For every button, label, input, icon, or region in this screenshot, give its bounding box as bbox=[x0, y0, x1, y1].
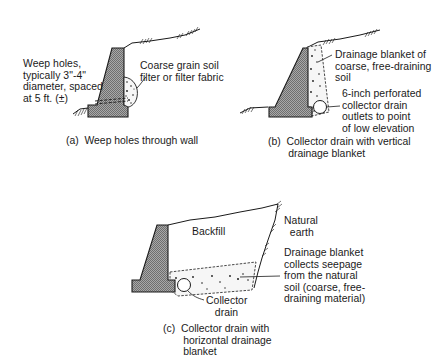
collector-drain-label-c: Collector drain bbox=[206, 295, 247, 318]
natural-earth-line bbox=[254, 204, 278, 288]
backfill-surface-c bbox=[168, 204, 278, 225]
drainage-blanket-label-b: Drainage blanket of coarse, free-drainin… bbox=[335, 49, 431, 84]
collector-leader-line bbox=[327, 106, 340, 107]
natural-earth-label: Natural earth bbox=[284, 215, 318, 238]
collector-pipe-b bbox=[314, 101, 327, 114]
caption-b: (b) Collector drain with vertical draina… bbox=[268, 136, 411, 159]
collector-drain-label-b: 6-inch perforated collector drain outlet… bbox=[342, 88, 421, 134]
backfill-surface-b bbox=[308, 30, 380, 47]
filter-label: Coarse grain soil filter or filter fabri… bbox=[140, 60, 224, 83]
retaining-wall-b bbox=[269, 48, 312, 117]
backfill-label: Backfill bbox=[192, 226, 225, 238]
panel-c-drawing bbox=[132, 201, 282, 300]
drainage-blanket-label-c: Drainage blanket collects seepage from t… bbox=[284, 247, 365, 305]
weep-holes-label: Weep holes, typically 3"-4" diameter, sp… bbox=[23, 58, 103, 104]
retaining-wall-c bbox=[132, 225, 175, 292]
caption-c: (c) Collector drain with horizontal drai… bbox=[163, 323, 272, 358]
collector-pipe-c bbox=[178, 279, 191, 292]
caption-a: (a) Weep holes through wall bbox=[66, 135, 198, 147]
